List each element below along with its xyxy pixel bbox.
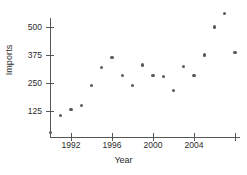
y-axis-tick-label: 500 <box>16 23 42 32</box>
data-point <box>80 104 83 107</box>
data-point <box>213 25 216 28</box>
x-axis-tick-label: 1996 <box>95 141 129 150</box>
x-axis-tick-label: 1992 <box>54 141 88 150</box>
data-point <box>100 66 103 69</box>
data-point <box>233 51 236 54</box>
data-point <box>162 75 165 78</box>
y-axis-tick <box>46 111 54 112</box>
data-point <box>203 53 206 56</box>
y-axis-tick-label: 250 <box>16 79 42 88</box>
data-point <box>141 63 144 66</box>
data-point <box>182 65 185 68</box>
x-axis-tick-label: 2000 <box>136 141 170 150</box>
data-point <box>151 74 154 77</box>
y-axis-tick-label: 375 <box>16 51 42 60</box>
data-point <box>59 114 62 117</box>
data-point <box>110 56 113 59</box>
y-axis-tick <box>46 83 54 84</box>
y-axis-tick-label: 125 <box>16 107 42 116</box>
y-axis-tick <box>46 55 54 56</box>
data-point <box>121 74 124 77</box>
data-point <box>90 84 93 87</box>
y-axis-tick <box>46 27 54 28</box>
x-axis-tick-label: 2004 <box>177 141 211 150</box>
data-point <box>69 108 72 111</box>
data-point <box>223 12 226 15</box>
data-point <box>49 131 52 134</box>
data-point <box>192 74 195 77</box>
plot-area: 1252503755001992199620002004 <box>0 0 247 175</box>
scatter-plot: Imports Year 125250375500199219962000200… <box>0 0 247 175</box>
data-point <box>131 84 134 87</box>
x-axis-tick <box>235 133 236 141</box>
data-point <box>172 89 175 92</box>
